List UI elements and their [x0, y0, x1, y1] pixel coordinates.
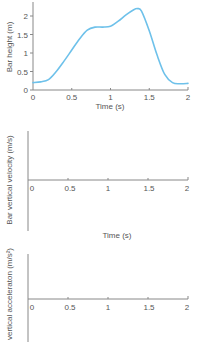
height-x-title: Time (s) — [95, 102, 124, 111]
height-xtick-1.5: 1.5 — [144, 93, 156, 102]
height-ytick-0.5: 0.5 — [17, 68, 29, 77]
height-chart: 0 0.5 1 1.5 2 0 0.5 1 1.5 2 Time (s) Bar… — [5, 2, 191, 111]
velocity-xtick-2: 2 — [185, 184, 190, 193]
acceleration-y-title: vertical acceleraton (m/s²) — [5, 248, 14, 340]
height-ytick-2: 2 — [24, 12, 29, 21]
velocity-y-title: Bar vertical velocity (m/s) — [5, 135, 14, 225]
height-xtick-2: 2 — [186, 93, 191, 102]
acceleration-xtick-1: 1 — [106, 303, 111, 312]
height-xtick-0.5: 0.5 — [66, 93, 78, 102]
acceleration-xtick-2: 2 — [185, 303, 190, 312]
acceleration-xtick-1.5: 1.5 — [143, 303, 155, 312]
height-xtick-1: 1 — [108, 93, 113, 102]
height-ytick-1.5: 1.5 — [17, 31, 29, 40]
velocity-xtick-1.5: 1.5 — [143, 184, 155, 193]
velocity-chart: 0 0.5 1 1.5 2 Time (s) Bar vertical velo… — [5, 131, 190, 240]
velocity-xtick-1: 1 — [106, 184, 111, 193]
height-y-title: Bar height (m) — [5, 21, 14, 72]
height-curve — [33, 9, 188, 84]
velocity-xtick-0: 0 — [30, 184, 35, 193]
acceleration-xtick-0: 0 — [30, 303, 35, 312]
height-xtick-0: 0 — [31, 93, 36, 102]
acceleration-chart: 0 0.5 1 1.5 2 vertical acceleraton (m/s²… — [5, 248, 190, 342]
height-ytick-1: 1 — [24, 49, 29, 58]
charts-canvas: 0 0.5 1 1.5 2 0 0.5 1 1.5 2 Time (s) Bar… — [0, 0, 197, 342]
velocity-xtick-0.5: 0.5 — [64, 184, 76, 193]
height-ytick-0: 0 — [24, 86, 29, 95]
velocity-x-title: Time (s) — [102, 231, 131, 240]
acceleration-xtick-0.5: 0.5 — [64, 303, 76, 312]
